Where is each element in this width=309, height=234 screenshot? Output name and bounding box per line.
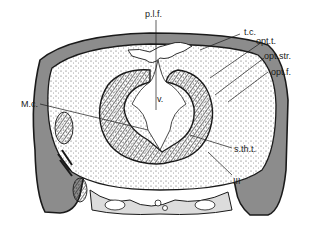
label-tc: t.c. bbox=[244, 27, 256, 37]
label-optf: opt.f. bbox=[271, 67, 291, 77]
label-iii: III bbox=[233, 176, 241, 186]
lateral-mass-left bbox=[55, 112, 73, 144]
label-stht: s.th.t. bbox=[234, 144, 256, 154]
label-optt: opt.t. bbox=[256, 36, 276, 46]
label-optstr: opt.str. bbox=[264, 51, 291, 61]
brain-cross-section-figure: p.l.f. t.c. opt.t. opt.str. opt.f. M.c. … bbox=[0, 0, 309, 234]
label-v: v. bbox=[157, 94, 163, 104]
label-plf: p.l.f. bbox=[145, 9, 162, 19]
label-mc: M.c. bbox=[21, 99, 38, 109]
